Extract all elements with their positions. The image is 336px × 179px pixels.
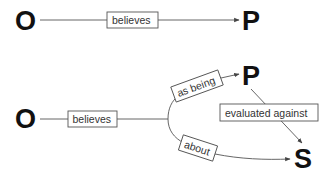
- about-box-group: about: [178, 135, 217, 161]
- top-node-p: P: [242, 6, 260, 36]
- as-being-box-group: as being: [171, 70, 223, 102]
- bottom-node-o: O: [15, 104, 36, 134]
- top-believes-label: believes: [112, 14, 151, 26]
- upper-branch-arrow: [221, 74, 239, 78]
- evaluated-against-label: evaluated against: [225, 107, 307, 119]
- top-node-o: O: [15, 6, 36, 36]
- belief-diagram: O believes P O believes as being P about…: [0, 0, 336, 179]
- bottom-node-s: S: [294, 144, 312, 174]
- bottom-believes-label: believes: [73, 113, 112, 125]
- bottom-node-p: P: [242, 61, 260, 91]
- lower-branch-arrow: [215, 154, 290, 159]
- top-diagram: O believes P: [15, 6, 260, 36]
- bottom-diagram: O believes as being P about S evaluated …: [15, 61, 318, 174]
